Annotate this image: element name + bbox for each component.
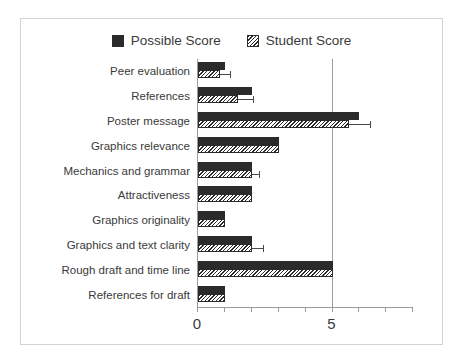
bar-student-score [198,294,225,302]
x-tick-2 [251,307,252,312]
error-bar-line [349,124,371,125]
hatched-square-icon [247,35,259,47]
category-label: Poster message [20,115,190,127]
bar-possible-score [198,87,252,95]
x-tick-8 [412,307,413,312]
legend-entry-possible-score: Possible Score [112,33,221,48]
error-bar-cap [263,245,264,252]
solid-square-icon [112,35,124,47]
x-tick-0 [197,307,198,312]
bar-student-score [198,145,279,153]
bar-possible-score [198,112,359,120]
bar-student-score [198,269,333,277]
bar-possible-score [198,236,252,244]
bar-possible-score [198,211,225,219]
bar-student-score [198,95,238,103]
bar-student-score [198,70,220,78]
x-tick-7 [385,307,386,312]
bar-possible-score [198,162,252,170]
error-bar-cap [230,71,231,78]
category-label: References for draft [20,289,190,301]
chart-frame: Possible Score Student Score Peer evalua… [20,18,443,345]
bars-container: 05 [197,59,412,307]
error-bar-cap [259,171,260,178]
category-label: Attractiveness [20,189,190,201]
error-bar-line [238,99,253,100]
error-bar-line [220,74,231,75]
error-bar-line [252,174,259,175]
error-bar-cap [370,121,371,128]
category-label: Graphics relevance [20,140,190,152]
error-bar-line [252,248,263,249]
category-label: Graphics and text clarity [20,239,190,251]
bar-student-score [198,120,349,128]
x-tick-label-5: 5 [327,315,335,332]
bar-possible-score [198,186,252,194]
bar-possible-score [198,286,225,294]
x-tick-3 [278,307,279,312]
category-label: Graphics originality [20,214,190,226]
error-bar-cap [253,96,254,103]
category-label: Peer evaluation [20,65,190,77]
x-tick-4 [305,307,306,312]
bar-possible-score [198,62,225,70]
legend-label-student-score: Student Score [266,33,352,48]
category-label: Rough draft and time line [20,264,190,276]
bar-student-score [198,219,225,227]
bar-student-score [198,244,252,252]
x-tick-5 [332,307,333,312]
plot-area: Peer evaluationReferencesPoster messageG… [21,59,442,342]
category-label: Mechanics and grammar [20,165,190,177]
x-tick-1 [224,307,225,312]
x-tick-6 [358,307,359,312]
bar-possible-score [198,137,279,145]
category-axis: Peer evaluationReferencesPoster messageG… [21,59,196,307]
x-tick-label-0: 0 [193,315,201,332]
legend-entry-student-score: Student Score [247,33,352,48]
legend-label-possible-score: Possible Score [131,33,221,48]
bar-student-score [198,194,252,202]
bar-possible-score [198,261,333,269]
bar-student-score [198,170,252,178]
category-label: References [20,90,190,102]
chart-legend: Possible Score Student Score [21,33,442,48]
